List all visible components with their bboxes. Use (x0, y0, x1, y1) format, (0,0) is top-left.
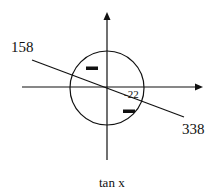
minus-sign-quadrant-2-icon (86, 67, 98, 71)
tan-sign-diagram: 158 -22 338 tan x (0, 0, 217, 192)
minus-sign-quadrant-4-icon (123, 110, 135, 114)
x-axis-arrow-icon (195, 84, 203, 91)
angle-label-338: 338 (182, 121, 205, 137)
angle-label-158: 158 (11, 39, 34, 55)
y-axis-arrow-icon (104, 12, 111, 20)
function-label: tan x (99, 175, 125, 190)
terminal-angle-line (32, 60, 184, 117)
reference-angle-label: -22 (124, 88, 139, 100)
